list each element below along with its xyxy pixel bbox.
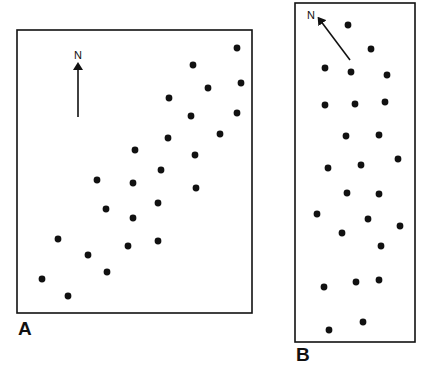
tree-dot xyxy=(326,327,333,334)
tree-dot xyxy=(94,177,101,184)
tree-dot xyxy=(65,293,72,300)
tree-dot xyxy=(353,279,360,286)
tree-dot xyxy=(325,165,332,172)
panel-frame-a xyxy=(17,30,252,313)
tree-dot xyxy=(166,95,173,102)
tree-dot xyxy=(205,85,212,92)
north-label-b: N xyxy=(307,10,315,21)
tree-dot xyxy=(344,190,351,197)
tree-dot xyxy=(352,101,359,108)
tree-dot xyxy=(155,238,162,245)
tree-dot xyxy=(376,277,383,284)
tree-dot xyxy=(378,243,385,250)
panel-a xyxy=(17,30,252,313)
tree-dot xyxy=(343,133,350,140)
tree-dot xyxy=(321,284,328,291)
tree-dot xyxy=(190,62,197,69)
tree-dot xyxy=(165,135,172,142)
tree-dot xyxy=(130,180,137,187)
tree-dot xyxy=(155,200,162,207)
tree-dot xyxy=(376,132,383,139)
tree-dot xyxy=(368,46,375,53)
tree-dot xyxy=(345,22,352,29)
panel-b xyxy=(295,3,415,342)
tree-dot xyxy=(85,252,92,259)
figure-canvas xyxy=(0,0,422,375)
tree-dot xyxy=(397,223,404,230)
tree-dot xyxy=(384,72,391,79)
tree-dot xyxy=(376,191,383,198)
tree-dot xyxy=(314,211,321,218)
tree-dot xyxy=(217,131,224,138)
tree-dot xyxy=(193,185,200,192)
tree-dot xyxy=(358,162,365,169)
tree-dot xyxy=(322,65,329,72)
tree-dot xyxy=(234,45,241,52)
tree-dot xyxy=(382,99,389,106)
panel-frame-b xyxy=(295,3,415,342)
tree-dot xyxy=(55,236,62,243)
north-label-a: N xyxy=(74,50,82,61)
tree-dot xyxy=(339,230,346,237)
tree-dot xyxy=(234,110,241,117)
tree-dot xyxy=(192,152,199,159)
tree-dot xyxy=(158,167,165,174)
tree-dot xyxy=(322,102,329,109)
tree-dot xyxy=(348,69,355,76)
tree-dot xyxy=(103,206,110,213)
tree-dot xyxy=(365,216,372,223)
tree-dot xyxy=(238,80,245,87)
tree-dot xyxy=(39,276,46,283)
tree-dot xyxy=(188,113,195,120)
tree-dot xyxy=(132,147,139,154)
tree-dot xyxy=(104,269,111,276)
panel-label-b: B xyxy=(296,345,310,364)
tree-dot xyxy=(360,319,367,326)
tree-dot xyxy=(130,215,137,222)
tree-dot xyxy=(125,243,132,250)
panel-label-a: A xyxy=(18,319,32,338)
tree-dot xyxy=(395,156,402,163)
